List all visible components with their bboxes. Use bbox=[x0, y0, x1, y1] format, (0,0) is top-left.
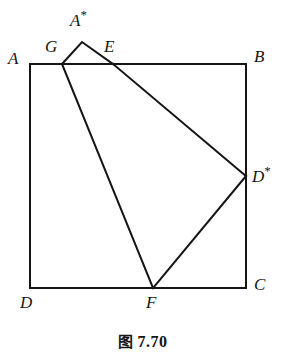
figure-caption-cn: 图 bbox=[118, 333, 134, 351]
vertex-label-A-text: A bbox=[8, 49, 18, 68]
crease-line-dstar-f bbox=[153, 176, 246, 288]
vertex-label-G: G bbox=[45, 38, 57, 55]
vertex-label-F: F bbox=[146, 294, 156, 311]
figure-caption: 图 7.70 bbox=[0, 330, 285, 351]
square-abcd-outline bbox=[30, 64, 246, 288]
figure-canvas bbox=[0, 0, 285, 359]
vertex-label-D-star-text: D bbox=[252, 167, 264, 186]
vertex-label-B-text: B bbox=[254, 47, 264, 66]
vertex-label-F-text: F bbox=[146, 293, 156, 312]
vertex-label-B: B bbox=[254, 48, 264, 65]
vertex-label-E-text: E bbox=[104, 37, 114, 56]
vertex-label-A-star: A* bbox=[70, 8, 87, 29]
vertex-label-A-star-text: A bbox=[70, 11, 80, 30]
vertex-label-G-text: G bbox=[45, 37, 57, 56]
vertex-label-A-star-asterisk: * bbox=[80, 7, 87, 22]
crease-line-g-f bbox=[62, 64, 153, 288]
vertex-label-D-star-asterisk: * bbox=[264, 163, 271, 178]
vertex-label-D: D bbox=[20, 294, 32, 311]
figure-caption-number-value: 7.70 bbox=[138, 333, 168, 350]
crease-line-e-dstar bbox=[113, 64, 246, 176]
geometry-figure: A B C D G E F A* D* 图 7.70 bbox=[0, 0, 285, 359]
vertex-label-E: E bbox=[104, 38, 114, 55]
vertex-label-C: C bbox=[254, 276, 265, 293]
vertex-label-A: A bbox=[8, 50, 18, 67]
vertex-label-D-star: D* bbox=[252, 164, 271, 185]
vertex-label-C-text: C bbox=[254, 275, 265, 294]
vertex-label-D-text: D bbox=[20, 293, 32, 312]
